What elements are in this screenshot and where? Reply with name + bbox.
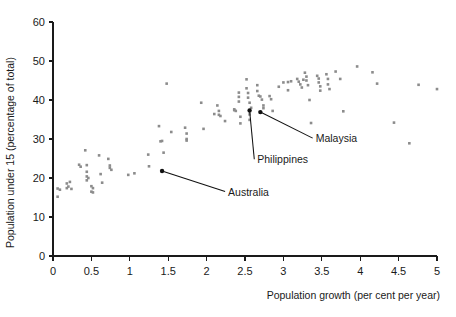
data-point bbox=[99, 173, 102, 176]
annotation-marker bbox=[160, 169, 164, 173]
data-point bbox=[287, 89, 290, 92]
annotation-leader-line bbox=[250, 111, 255, 160]
data-point bbox=[262, 104, 265, 107]
data-point bbox=[316, 75, 319, 78]
data-point bbox=[238, 96, 241, 99]
data-point bbox=[319, 85, 322, 88]
y-tick-label: 30 bbox=[33, 133, 45, 145]
x-tick-label: 2.5 bbox=[237, 265, 252, 277]
data-point bbox=[268, 95, 271, 98]
x-tick-label: 4 bbox=[357, 265, 363, 277]
data-point bbox=[84, 149, 87, 152]
data-point bbox=[69, 181, 72, 184]
data-point bbox=[408, 142, 411, 145]
data-point bbox=[79, 165, 82, 168]
data-point bbox=[107, 158, 110, 161]
data-point bbox=[66, 182, 69, 185]
data-point bbox=[319, 89, 322, 92]
data-point bbox=[356, 65, 359, 68]
data-point bbox=[127, 174, 130, 177]
data-point bbox=[158, 125, 161, 128]
data-point bbox=[162, 151, 165, 154]
data-point bbox=[238, 100, 241, 103]
data-point bbox=[301, 86, 304, 89]
data-point bbox=[239, 122, 242, 125]
y-axis-ticks: 0102030405060 bbox=[33, 16, 53, 262]
scatter-chart: 0102030405060 00.511.522.533.544.55 Aust… bbox=[0, 0, 456, 317]
data-point bbox=[161, 140, 164, 143]
data-point bbox=[85, 164, 88, 167]
data-point bbox=[219, 115, 222, 118]
x-tick-label: 3 bbox=[280, 265, 286, 277]
data-point bbox=[339, 78, 342, 81]
axes bbox=[53, 22, 437, 256]
data-point bbox=[148, 165, 151, 168]
y-tick-label: 50 bbox=[33, 55, 45, 67]
data-point bbox=[133, 172, 136, 175]
data-point bbox=[256, 90, 259, 93]
data-point bbox=[277, 85, 280, 88]
data-point bbox=[165, 82, 168, 85]
data-point bbox=[287, 81, 290, 84]
data-point bbox=[170, 131, 173, 134]
data-point bbox=[185, 132, 188, 135]
data-point bbox=[184, 126, 187, 129]
data-point bbox=[325, 73, 328, 76]
x-tick-label: 2 bbox=[204, 265, 210, 277]
x-tick-label: 0 bbox=[50, 265, 56, 277]
data-point bbox=[307, 84, 310, 87]
annotation-leader-line bbox=[260, 112, 312, 138]
data-point bbox=[262, 107, 265, 110]
data-point bbox=[213, 113, 216, 116]
data-point bbox=[334, 70, 337, 73]
x-tick-label: 4.5 bbox=[391, 265, 406, 277]
data-point bbox=[98, 154, 101, 157]
data-point bbox=[282, 81, 285, 84]
data-point bbox=[234, 110, 237, 113]
data-point bbox=[304, 71, 307, 74]
annotation-label: Australia bbox=[228, 186, 269, 198]
data-point bbox=[238, 91, 241, 94]
annotation-label: Philippines bbox=[257, 153, 308, 165]
data-point bbox=[270, 98, 273, 101]
y-tick-label: 60 bbox=[33, 16, 45, 28]
data-point bbox=[85, 170, 88, 173]
data-point bbox=[327, 83, 330, 86]
annotation-marker bbox=[258, 110, 262, 114]
x-tick-label: 3.5 bbox=[314, 265, 329, 277]
data-point bbox=[271, 110, 274, 113]
data-point bbox=[56, 187, 59, 190]
data-point bbox=[305, 79, 308, 82]
data-point bbox=[224, 120, 227, 123]
data-point bbox=[85, 179, 88, 182]
data-point bbox=[92, 191, 95, 194]
data-point bbox=[147, 153, 150, 156]
data-point bbox=[417, 83, 420, 86]
data-point bbox=[67, 185, 70, 188]
data-point bbox=[290, 80, 293, 83]
chart-canvas: 0102030405060 00.511.522.533.544.55 Aust… bbox=[0, 0, 456, 317]
data-point bbox=[247, 92, 250, 95]
data-point bbox=[296, 78, 299, 81]
data-point bbox=[299, 83, 302, 86]
data-points bbox=[56, 65, 438, 198]
data-point bbox=[59, 188, 62, 191]
data-point bbox=[342, 110, 345, 113]
data-point bbox=[70, 188, 73, 191]
data-point bbox=[393, 121, 396, 124]
data-point bbox=[202, 128, 205, 131]
x-tick-label: 1 bbox=[127, 265, 133, 277]
data-point bbox=[327, 78, 330, 81]
data-point bbox=[317, 81, 320, 84]
data-point bbox=[308, 99, 311, 102]
data-point bbox=[87, 177, 90, 180]
annotation-marker bbox=[247, 108, 251, 112]
data-point bbox=[317, 77, 320, 80]
y-tick-label: 40 bbox=[33, 94, 45, 106]
data-point bbox=[247, 96, 250, 99]
annotations: AustraliaPhilippinesMalaysia bbox=[160, 108, 357, 197]
data-point bbox=[302, 78, 305, 81]
data-point bbox=[239, 115, 242, 118]
data-point bbox=[200, 101, 203, 104]
data-point bbox=[56, 195, 59, 198]
